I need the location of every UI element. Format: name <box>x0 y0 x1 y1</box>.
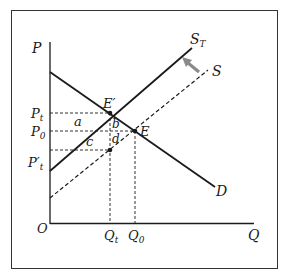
demand-curve <box>50 72 215 187</box>
area-label-c: c <box>86 134 94 149</box>
shift-arrow-icon <box>182 57 199 72</box>
supply-label: S <box>212 63 222 79</box>
point-e <box>133 129 138 134</box>
x-axis-label: Q <box>248 227 260 243</box>
origin-label: O <box>37 221 48 236</box>
price-label-pt-prime: P′t <box>27 155 44 172</box>
tax-incidence-diagram: P Q O D ST S Pt P0 P′t Qt Q0 E′ E a b c … <box>0 0 281 276</box>
guide-lines <box>50 113 135 223</box>
area-label-d: d <box>112 132 120 146</box>
demand-label: D <box>215 183 227 199</box>
price-label-pt: Pt <box>30 106 44 123</box>
area-label-b: b <box>112 117 120 131</box>
point-e-prime <box>108 111 113 116</box>
point-producer-price <box>108 148 113 153</box>
point-label-e: E <box>139 124 150 139</box>
supply-after-tax-curve <box>50 48 192 171</box>
y-axis-label: P <box>31 40 42 56</box>
quantity-label-q0: Q0 <box>128 228 145 245</box>
supply-after-tax-label: ST <box>190 31 207 49</box>
price-label-p0: P0 <box>30 124 46 141</box>
diagram-frame <box>12 11 278 269</box>
area-label-a: a <box>74 114 82 129</box>
quantity-label-qt: Qt <box>104 228 119 245</box>
point-label-e-prime: E′ <box>102 96 115 111</box>
